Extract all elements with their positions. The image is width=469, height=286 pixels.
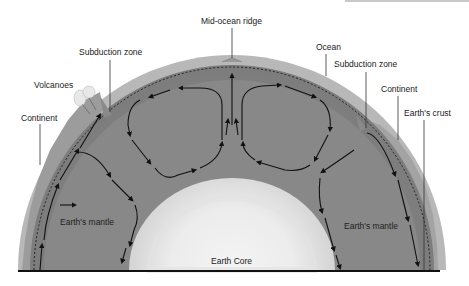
label-mid-ocean-ridge: Mid-ocean ridge — [201, 17, 262, 26]
label-subduction-zone-left: Subduction zone — [79, 48, 142, 57]
label-continent-left: Continent — [21, 114, 57, 123]
label-ocean: Ocean — [316, 43, 341, 52]
label-earths-mantle-left: Earth's mantle — [60, 218, 114, 227]
label-subduction-zone-right: Subduction zone — [334, 60, 397, 69]
earth-cross-section-diagram — [0, 0, 469, 286]
label-earths-crust: Earth's crust — [404, 109, 451, 118]
label-earth-core: Earth Core — [211, 257, 252, 266]
label-earths-mantle-right: Earth's mantle — [344, 222, 398, 231]
label-continent-right: Continent — [381, 85, 417, 94]
label-volcanoes: Volcanoes — [34, 81, 73, 90]
